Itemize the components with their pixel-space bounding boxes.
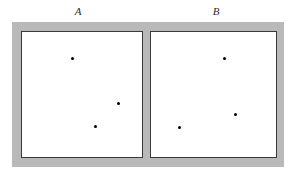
particle-b-3 <box>178 126 181 129</box>
particle-a-3 <box>94 125 97 128</box>
chamber-a-interior <box>21 31 143 158</box>
chamber-partition <box>143 31 150 158</box>
chamber-b-label: B <box>206 6 226 17</box>
gas-chamber-diagram: A B <box>0 0 292 173</box>
particle-b-2 <box>234 113 237 116</box>
particle-b-1 <box>223 57 226 60</box>
particle-a-1 <box>71 57 74 60</box>
chamber-b-interior <box>150 31 277 158</box>
chamber-a-label: A <box>68 6 88 17</box>
particle-a-2 <box>117 102 120 105</box>
